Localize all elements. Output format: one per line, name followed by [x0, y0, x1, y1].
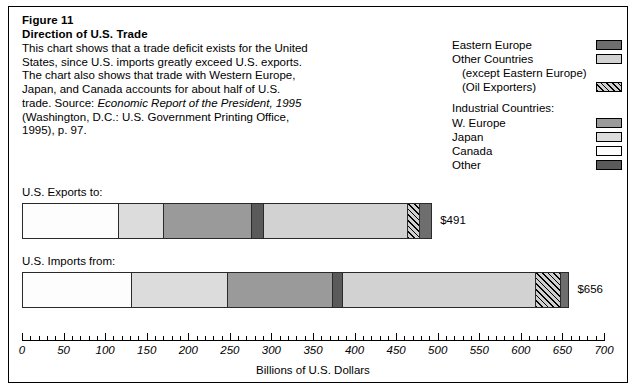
x-axis-minor-tick — [404, 336, 405, 340]
x-axis-minor-tick — [80, 336, 81, 340]
x-axis-minor-tick — [537, 336, 538, 340]
stacked-bar-imports — [22, 272, 569, 308]
bar-total-label: $656 — [577, 283, 603, 295]
x-axis-minor-tick — [529, 336, 530, 340]
bar-segment-canada — [23, 204, 119, 238]
x-axis-tick-label: 400 — [335, 344, 375, 356]
x-axis-minor-tick — [255, 336, 256, 340]
x-axis-major-tick — [355, 333, 356, 340]
x-axis-major-tick — [230, 333, 231, 340]
bar-segment-other — [264, 204, 408, 238]
x-axis-major-tick — [64, 333, 65, 340]
x-axis-major-tick — [188, 333, 189, 340]
x-axis-minor-tick — [130, 336, 131, 340]
bar-segment-japan — [119, 204, 165, 238]
x-axis-minor-tick — [413, 336, 414, 340]
x-axis-minor-tick — [596, 336, 597, 340]
x-axis-minor-tick — [554, 336, 555, 340]
x-axis-minor-tick — [305, 336, 306, 340]
x-axis-minor-tick — [587, 336, 588, 340]
chart-plot-area: U.S. Exports to:$491U.S. Imports from:$6… — [0, 0, 636, 391]
x-axis-tick-label: 450 — [376, 344, 416, 356]
x-axis-minor-tick — [205, 336, 206, 340]
x-axis-minor-tick — [39, 336, 40, 340]
x-axis-minor-tick — [238, 336, 239, 340]
x-axis-tick-label: 550 — [459, 344, 499, 356]
x-axis-minor-tick — [222, 336, 223, 340]
x-axis-major-tick — [147, 333, 148, 340]
x-axis-minor-tick — [380, 336, 381, 340]
bar-segment-oind — [333, 273, 343, 307]
x-axis-minor-tick — [446, 336, 447, 340]
bar-segment-oil — [536, 273, 561, 307]
x-axis-minor-tick — [346, 336, 347, 340]
x-axis-minor-tick — [421, 336, 422, 340]
x-axis-major-tick — [562, 333, 563, 340]
x-axis-tick-label: 0 — [2, 344, 42, 356]
x-axis-line — [22, 340, 605, 341]
x-axis-major-tick — [479, 333, 480, 340]
bar-segment-japan — [132, 273, 228, 307]
x-axis-minor-tick — [97, 336, 98, 340]
bar-segment-weur — [228, 273, 333, 307]
x-axis-tick-label: 600 — [501, 344, 541, 356]
stacked-bar-exports — [22, 203, 432, 239]
x-axis-minor-tick — [55, 336, 56, 340]
x-axis-tick-label: 250 — [210, 344, 250, 356]
bar-segment-other — [343, 273, 536, 307]
x-axis-minor-tick — [113, 336, 114, 340]
x-axis-major-tick — [521, 333, 522, 340]
x-axis-minor-tick — [463, 336, 464, 340]
x-axis-major-tick — [396, 333, 397, 340]
x-axis-minor-tick — [429, 336, 430, 340]
x-axis-minor-tick — [122, 336, 123, 340]
x-axis-minor-tick — [155, 336, 156, 340]
x-axis-minor-tick — [504, 336, 505, 340]
bar-segment-canada — [23, 273, 132, 307]
x-axis-minor-tick — [496, 336, 497, 340]
x-axis-tick-label: 100 — [85, 344, 125, 356]
x-axis-minor-tick — [488, 336, 489, 340]
x-axis-major-tick — [22, 333, 23, 340]
x-axis-major-tick — [271, 333, 272, 340]
x-axis-tick-label: 350 — [293, 344, 333, 356]
x-axis-minor-tick — [47, 336, 48, 340]
x-axis-tick-label: 700 — [584, 344, 624, 356]
x-axis-minor-tick — [172, 336, 173, 340]
x-axis-minor-tick — [89, 336, 90, 340]
x-axis-minor-tick — [571, 336, 572, 340]
x-axis-title: Billions of U.S. Dollars — [22, 364, 604, 376]
x-axis-minor-tick — [454, 336, 455, 340]
x-axis-minor-tick — [338, 336, 339, 340]
x-axis-tick-label: 50 — [44, 344, 84, 356]
x-axis-minor-tick — [263, 336, 264, 340]
bar-segment-east — [420, 204, 431, 238]
x-axis-tick-label: 500 — [418, 344, 458, 356]
x-axis-minor-tick — [363, 336, 364, 340]
x-axis-minor-tick — [546, 336, 547, 340]
x-axis-tick-label: 200 — [168, 344, 208, 356]
bar-segment-east — [561, 273, 568, 307]
x-axis-minor-tick — [513, 336, 514, 340]
x-axis-minor-tick — [579, 336, 580, 340]
x-axis-minor-tick — [371, 336, 372, 340]
bar-total-label: $491 — [440, 214, 466, 226]
x-axis-minor-tick — [388, 336, 389, 340]
x-axis-minor-tick — [471, 336, 472, 340]
x-axis-minor-tick — [163, 336, 164, 340]
x-axis-minor-tick — [138, 336, 139, 340]
x-axis-tick-label: 650 — [542, 344, 582, 356]
x-axis-minor-tick — [72, 336, 73, 340]
x-axis-minor-tick — [30, 336, 31, 340]
x-axis-minor-tick — [321, 336, 322, 340]
x-axis-major-tick — [604, 333, 605, 340]
x-axis-minor-tick — [296, 336, 297, 340]
bar-segment-oind — [252, 204, 264, 238]
x-axis-minor-tick — [180, 336, 181, 340]
figure-panel: Figure 11 Direction of U.S. Trade This c… — [0, 0, 636, 391]
x-axis-minor-tick — [288, 336, 289, 340]
x-axis-minor-tick — [197, 336, 198, 340]
x-axis-minor-tick — [280, 336, 281, 340]
bar-category-label: U.S. Exports to: — [22, 186, 103, 198]
x-axis-tick-label: 300 — [251, 344, 291, 356]
